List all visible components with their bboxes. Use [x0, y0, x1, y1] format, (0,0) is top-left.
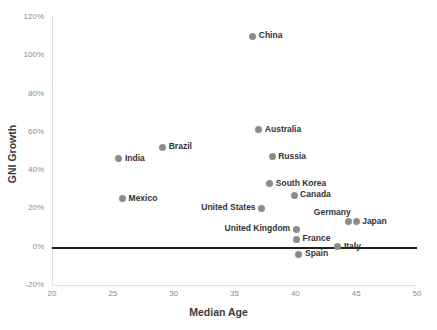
data-point-marker — [293, 236, 300, 243]
x-tick-label: 45 — [344, 289, 368, 298]
data-point-label: China — [259, 30, 283, 40]
scatter-chart: GNI Growth Median Age 120%100%80%60%40%2… — [0, 0, 437, 330]
data-point-marker — [255, 126, 262, 133]
data-point-marker — [266, 180, 273, 187]
data-point-marker — [119, 195, 126, 202]
data-point-marker — [249, 33, 256, 40]
data-point-marker — [353, 218, 360, 225]
y-tick-label: 80% — [14, 89, 44, 98]
y-tick-label: 20% — [14, 203, 44, 212]
data-point-label: United Kingdom — [225, 223, 291, 233]
data-point-label: Australia — [265, 124, 301, 134]
data-point-label: South Korea — [276, 178, 327, 188]
x-tick-label: 25 — [101, 289, 125, 298]
data-point-label: Spain — [305, 248, 328, 258]
y-tick-label: 40% — [14, 165, 44, 174]
data-point-label: Russia — [278, 151, 306, 161]
data-point-marker — [115, 155, 122, 162]
data-point-marker — [159, 144, 166, 151]
data-point-label: Canada — [300, 189, 331, 199]
y-tick-label: 60% — [14, 127, 44, 136]
data-point-marker — [345, 218, 352, 225]
data-point-label: Japan — [362, 216, 387, 226]
data-point-label: Italy — [344, 241, 361, 251]
data-point-label: France — [303, 233, 331, 243]
x-tick-label: 40 — [283, 289, 307, 298]
data-point-marker — [269, 153, 276, 160]
x-tick-label: 35 — [223, 289, 247, 298]
y-tick-label: 100% — [14, 50, 44, 59]
data-point-label: India — [125, 153, 145, 163]
y-axis-line — [52, 16, 53, 286]
y-tick-label: -20% — [14, 280, 44, 289]
data-point-label: Germany — [314, 207, 351, 217]
data-point-label: Brazil — [169, 141, 192, 151]
data-point-marker — [258, 205, 265, 212]
data-point-marker — [295, 251, 302, 258]
x-tick-label: 30 — [162, 289, 186, 298]
data-point-marker — [291, 192, 298, 199]
y-tick-label: 0% — [14, 242, 44, 251]
x-tick-label: 20 — [40, 289, 64, 298]
y-tick-label: 120% — [14, 12, 44, 21]
zero-reference-line — [52, 247, 417, 249]
x-axis-title: Median Age — [0, 306, 437, 318]
data-point-marker — [293, 226, 300, 233]
data-point-label: United States — [201, 202, 255, 212]
data-point-label: Mexico — [129, 193, 158, 203]
x-tick-label: 50 — [405, 289, 429, 298]
data-point-marker — [334, 243, 341, 250]
x-axis-line — [52, 285, 417, 286]
